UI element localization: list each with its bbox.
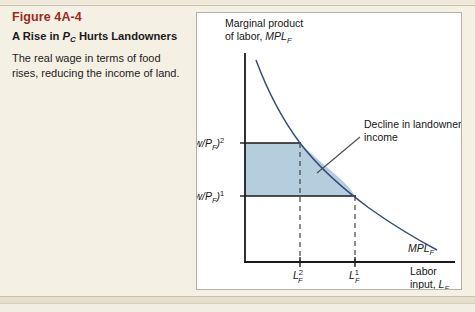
- figure-title: A Rise in PC Hurts Landowners: [12, 29, 184, 45]
- page-rule-bottom: [0, 296, 475, 297]
- y-tick-label-wage1-var: (w/P: [197, 190, 212, 202]
- curve-label-var: MPL: [408, 242, 430, 254]
- figure-title-italic-var: P: [63, 30, 70, 42]
- x-axis-label-line2: input, LF: [410, 278, 449, 289]
- x-tick-label-lf2-sub: F: [298, 276, 303, 285]
- y-tick-label-wage2-sup: 2: [220, 136, 224, 145]
- curve-label-sub: F: [430, 248, 435, 257]
- curve-label-mpl: MPLF: [408, 242, 435, 257]
- figure-caption-block: Figure 4A-4 A Rise in PC Hurts Landowner…: [12, 10, 184, 81]
- x-tick-label-lf1: L1F: [349, 268, 360, 285]
- figure-container: Figure 4A-4 A Rise in PC Hurts Landowner…: [0, 0, 475, 312]
- y-tick-label-wage1-sup: 1: [220, 189, 224, 198]
- figure-number: Figure 4A-4: [12, 10, 184, 24]
- y-axis-label-var: MPL: [265, 30, 287, 42]
- figure-title-subscript: C: [70, 35, 76, 44]
- annotation-decline-line2: income: [364, 131, 398, 143]
- y-tick-label-wage1: (w/PF)1: [197, 189, 224, 205]
- page-rule-top: [0, 5, 475, 6]
- x-axis-label-sub: F: [444, 284, 449, 289]
- figure-title-before: A Rise in: [12, 30, 63, 42]
- x-tick-label-lf2: L2F: [293, 268, 303, 285]
- x-axis-label-line1: Labor: [410, 265, 437, 277]
- figure-title-after: Hurts Landowners: [76, 30, 177, 42]
- chart-svg: Marginal product of labor, MPLF (w/PF)2 …: [197, 13, 461, 289]
- x-axis-label-prefix: input,: [410, 278, 439, 289]
- page-rule-bottom-secondary: [0, 303, 475, 304]
- annotation-decline-line1: Decline in landowners': [364, 118, 461, 130]
- chart-panel: Marginal product of labor, MPLF (w/PF)2 …: [196, 12, 462, 290]
- y-tick-label-wage2-var: (w/P: [197, 137, 212, 149]
- y-axis-label-line1: Marginal product: [225, 17, 303, 29]
- x-tick-label-lf1-sub: F: [355, 276, 360, 285]
- y-axis-label-sub: F: [287, 36, 292, 45]
- figure-description: The real wage in terms of food rises, re…: [12, 51, 184, 81]
- y-axis-label-line2: of labor, MPLF: [225, 30, 292, 45]
- annotation-leader-line: [317, 137, 360, 173]
- y-tick-label-wage2: (w/PF)2: [197, 136, 224, 152]
- y-axis-label-prefix: of labor,: [225, 30, 265, 42]
